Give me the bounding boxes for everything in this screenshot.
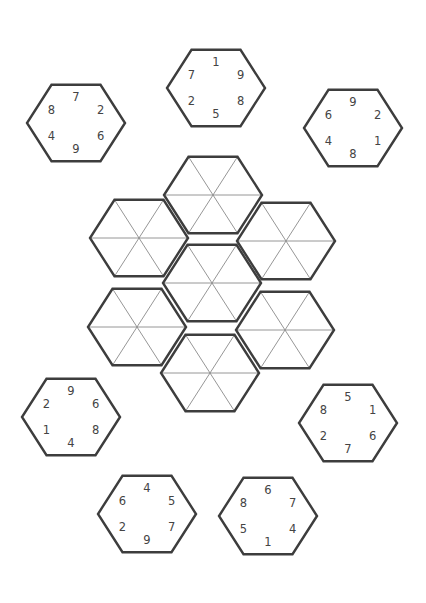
piece-number-top: 5 (344, 390, 351, 404)
piece-number-lower-right: 6 (97, 129, 104, 143)
piece-number-top: 1 (212, 55, 219, 69)
puzzle-board: 7269481985279218469684125167284579266741… (0, 0, 426, 603)
piece-number-top: 9 (67, 384, 74, 398)
piece-number-top: 9 (349, 95, 356, 109)
piece-number-lower-right: 4 (289, 522, 296, 536)
piece-number-bottom: 9 (143, 533, 150, 547)
piece-number-upper-left: 2 (43, 397, 50, 411)
piece-number-lower-left: 2 (320, 429, 327, 443)
piece-bottom-left[interactable]: 457926 (98, 476, 196, 552)
piece-number-upper-left: 7 (188, 68, 195, 82)
piece-top-right[interactable]: 921846 (304, 90, 402, 166)
slot-lower-right[interactable] (236, 292, 334, 368)
slot-bottom[interactable] (161, 335, 259, 411)
piece-number-lower-left: 1 (43, 423, 50, 437)
piece-number-lower-left: 4 (325, 134, 332, 148)
piece-number-bottom: 9 (72, 142, 79, 156)
piece-number-bottom: 8 (349, 147, 356, 161)
piece-top-left[interactable]: 726948 (27, 85, 125, 161)
piece-number-upper-right: 6 (92, 397, 99, 411)
piece-number-upper-left: 8 (48, 103, 55, 117)
piece-number-upper-left: 6 (119, 494, 126, 508)
piece-top-middle[interactable]: 198527 (167, 50, 265, 126)
piece-number-upper-right: 2 (97, 103, 104, 117)
piece-number-lower-left: 2 (119, 520, 126, 534)
piece-middle-right[interactable]: 516728 (299, 385, 397, 461)
piece-number-upper-right: 7 (289, 496, 296, 510)
piece-number-top: 7 (72, 90, 79, 104)
slot-lower-left[interactable] (88, 289, 186, 365)
piece-number-lower-left: 2 (188, 94, 195, 108)
slot-outline (161, 335, 259, 411)
piece-number-bottom: 5 (212, 107, 219, 121)
piece-number-bottom: 7 (344, 442, 351, 456)
piece-number-lower-right: 8 (237, 94, 244, 108)
piece-number-upper-right: 5 (168, 494, 175, 508)
piece-number-lower-right: 7 (168, 520, 175, 534)
piece-number-upper-left: 8 (320, 403, 327, 417)
slot-outline (88, 289, 186, 365)
piece-number-upper-right: 1 (369, 403, 376, 417)
piece-number-upper-right: 9 (237, 68, 244, 82)
piece-number-lower-left: 4 (48, 129, 55, 143)
piece-number-bottom: 4 (67, 436, 74, 450)
piece-number-upper-right: 2 (374, 108, 381, 122)
piece-bottom-right[interactable]: 674158 (219, 478, 317, 554)
piece-number-top: 6 (264, 483, 271, 497)
piece-number-lower-left: 5 (240, 522, 247, 536)
piece-number-top: 4 (143, 481, 150, 495)
piece-middle-left[interactable]: 968412 (22, 379, 120, 455)
piece-number-upper-left: 6 (325, 108, 332, 122)
piece-number-lower-right: 1 (374, 134, 381, 148)
board-grid (88, 157, 335, 411)
piece-number-upper-left: 8 (240, 496, 247, 510)
piece-number-lower-right: 8 (92, 423, 99, 437)
piece-number-lower-right: 6 (369, 429, 376, 443)
slot-outline (236, 292, 334, 368)
piece-number-bottom: 1 (264, 535, 271, 549)
